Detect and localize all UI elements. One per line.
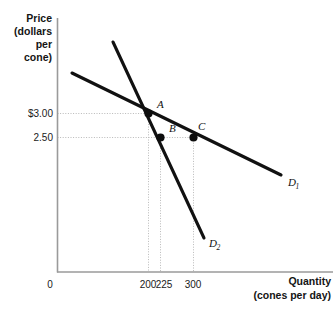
y-axis-title-line-4: cone) [24, 51, 52, 63]
y-axis-title: Price (dollars per cone) [14, 12, 52, 63]
point-marker-a [144, 109, 152, 117]
chart-canvas: A B C D 1 D 2 $3.00 2.50 200 225 300 0 P… [0, 0, 335, 314]
origin-label: 0 [47, 279, 53, 290]
point-label-b: B [169, 122, 176, 134]
point-label-a: A [156, 98, 164, 110]
y-axis-title-line-2: (dollars [14, 25, 52, 37]
x-tick-label-200: 200 [140, 279, 157, 290]
x-tick-label-225: 225 [156, 279, 173, 290]
y-tick-label-250: 2.50 [34, 132, 54, 143]
curve-label-d2-subscript: 2 [217, 243, 221, 252]
x-tick-label-300: 300 [185, 279, 202, 290]
point-marker-c [189, 133, 197, 141]
point-label-c: C [198, 120, 206, 132]
x-axis-title-line-2: (cones per day) [253, 289, 331, 301]
y-axis-title-line-3: per [36, 38, 52, 50]
y-axis-title-line-1: Price [26, 12, 52, 24]
point-marker-b [156, 133, 164, 141]
curve-label-d1-subscript: 1 [296, 182, 300, 191]
x-axis-title-line-1: Quantity [288, 275, 331, 287]
axes [57, 18, 333, 273]
x-axis-title: Quantity (cones per day) [253, 275, 331, 301]
y-tick-label-300: $3.00 [28, 108, 53, 119]
guide-lines [58, 114, 194, 273]
demand-curve-d1 [72, 73, 281, 175]
demand-curve-chart: A B C D 1 D 2 $3.00 2.50 200 225 300 0 P… [0, 0, 335, 314]
